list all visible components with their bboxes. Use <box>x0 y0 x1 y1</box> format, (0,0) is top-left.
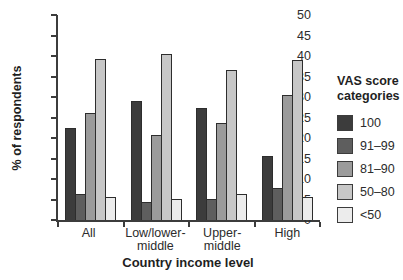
bar-50–80 <box>292 60 303 220</box>
y-tick-mark <box>51 199 57 201</box>
bar-<50 <box>171 199 182 220</box>
x-axis-title: Country income level <box>56 255 320 270</box>
legend-label: 81–90 <box>360 162 395 176</box>
x-label: High <box>255 227 320 253</box>
y-tick-mark <box>51 137 57 139</box>
x-label: Upper-middle <box>190 227 255 253</box>
bar-50–80 <box>161 54 172 220</box>
bar-<50 <box>105 197 116 220</box>
legend-entry: 100 <box>337 115 403 131</box>
plot-area: 05101520253035404550 <box>56 15 320 222</box>
bar-groups <box>58 15 320 220</box>
legend-swatch <box>337 138 353 154</box>
x-label: All <box>56 227 121 253</box>
bar-group <box>189 15 255 220</box>
legend-swatch <box>337 115 353 131</box>
y-tick-mark <box>51 14 57 16</box>
y-tick-mark <box>51 76 57 78</box>
legend-entry: 81–90 <box>337 161 403 177</box>
legend-label: <50 <box>360 208 381 222</box>
y-tick-mark <box>51 219 57 221</box>
legend-title: VAS score categories <box>337 74 403 104</box>
bar-group <box>255 15 321 220</box>
y-tick-mark <box>51 117 57 119</box>
y-tick-mark <box>51 96 57 98</box>
legend-label: 91–99 <box>360 139 395 153</box>
legend-swatch <box>337 207 353 223</box>
bar-<50 <box>236 194 247 220</box>
bar-group <box>124 15 190 220</box>
x-label: Low/lower-middle <box>121 227 189 253</box>
x-axis-labels: AllLow/lower-middleUpper-middleHigh <box>56 227 320 253</box>
legend-swatch <box>337 184 353 200</box>
y-tick-mark <box>51 55 57 57</box>
y-tick-mark <box>51 158 57 160</box>
legend-entry: 91–99 <box>337 138 403 154</box>
legend: VAS score categories 10091–9981–9050–80<… <box>337 74 403 230</box>
bar-chart-figure: % of respondents 05101520253035404550 Al… <box>0 0 403 280</box>
bar-<50 <box>302 197 313 220</box>
bar-group <box>58 15 124 220</box>
legend-label: 50–80 <box>360 185 395 199</box>
legend-label: 100 <box>360 116 381 130</box>
legend-swatch <box>337 161 353 177</box>
legend-entry: 50–80 <box>337 184 403 200</box>
y-tick-mark <box>51 178 57 180</box>
legend-entries: 10091–9981–9050–80<50 <box>337 115 403 223</box>
legend-entry: <50 <box>337 207 403 223</box>
y-axis-title: % of respondents <box>10 66 24 171</box>
y-tick-mark <box>51 35 57 37</box>
